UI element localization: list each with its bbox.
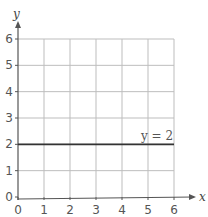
y-axis-arrow-icon: [15, 21, 21, 28]
x-tick-label: 1: [40, 203, 48, 217]
x-tick-label: 3: [92, 203, 100, 217]
x-axis-label: x: [199, 190, 206, 204]
line-annotation: y = 2: [140, 129, 173, 143]
y-tick-label: 0: [5, 190, 13, 204]
chart: 01234560123456 x y y = 2: [0, 0, 208, 217]
y-axis-label: y: [12, 7, 20, 21]
x-tick-label: 0: [14, 203, 22, 217]
y-tick-label: 4: [5, 85, 13, 99]
y-tick-label: 1: [5, 164, 13, 178]
x-tick-label: 5: [144, 203, 152, 217]
grid: [18, 39, 174, 197]
x-tick-label: 4: [118, 203, 126, 217]
tick-labels: 01234560123456: [5, 32, 178, 217]
y-tick-label: 5: [5, 58, 13, 72]
axes: [15, 21, 196, 200]
y-tick-label: 2: [5, 137, 13, 151]
y-tick-label: 6: [5, 32, 13, 46]
y-tick-label: 3: [5, 111, 13, 125]
x-tick-label: 2: [66, 203, 74, 217]
x-tick-label: 6: [170, 203, 178, 217]
x-axis-arrow-icon: [189, 194, 196, 200]
